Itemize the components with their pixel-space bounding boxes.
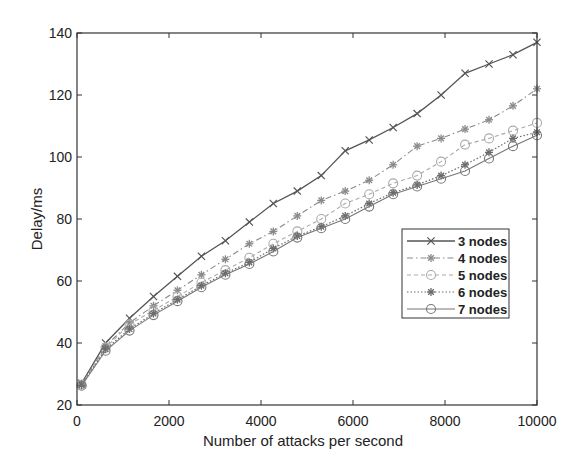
data-point-marker [414,110,421,117]
data-point-marker [390,124,397,131]
y-tick-label: 20 [56,397,72,413]
data-point-marker [294,188,301,195]
y-tick-label: 40 [56,335,72,351]
data-point-marker [293,212,301,220]
data-point-marker [269,227,277,235]
y-tick-label: 140 [49,25,73,41]
data-point-marker [461,125,469,133]
series-3-nodes [78,39,541,387]
data-point-marker [437,134,445,142]
axis-ticks [77,33,537,405]
data-point-marker [198,253,205,260]
x-tick-label: 0 [73,413,81,429]
legend-marker-icon [427,288,435,296]
data-point-marker [509,102,517,110]
data-point-marker [461,70,468,77]
y-tick-label: 60 [56,273,72,289]
y-tick-label: 80 [56,211,72,227]
legend-label-5-nodes: 5 nodes [458,268,507,283]
legend-label-3-nodes: 3 nodes [458,234,507,249]
data-point-marker [222,237,229,244]
data-point-marker [365,176,373,184]
legend-label-6-nodes: 6 nodes [458,285,507,300]
data-point-marker [270,200,277,207]
data-point-marker [246,219,253,226]
plot-frame [77,33,537,405]
x-axis-label: Number of attacks per second [203,432,403,449]
legend: 3 nodes 4 nodes 5 nodes 6 nodes 7 nodes [402,229,509,318]
y-axis-label: Delay/ms [28,188,45,251]
line-chart: 020004000600080001000020406080100120140 … [0,0,583,468]
data-point-marker [389,161,397,169]
legend-label-7-nodes: 7 nodes [458,302,507,317]
data-point-marker [485,116,493,124]
legend-label-4-nodes: 4 nodes [458,251,507,266]
data-point-marker [485,60,492,67]
x-tick-label: 2000 [153,413,184,429]
data-point-marker [317,196,325,204]
data-point-marker [341,187,349,195]
legend-marker-icon [427,254,435,262]
y-tick-label: 100 [49,149,73,165]
y-tick-label: 120 [49,87,73,103]
data-point-marker [366,136,373,143]
x-tick-label: 4000 [245,413,276,429]
data-point-marker [508,126,517,135]
axis-tick-labels: 020004000600080001000020406080100120140 [49,25,557,429]
plot-series [77,39,541,391]
data-point-marker [245,240,253,248]
data-point-marker [509,51,516,58]
x-tick-label: 6000 [337,413,368,429]
x-tick-label: 8000 [429,413,460,429]
data-point-marker [174,273,181,280]
data-point-marker [461,140,470,149]
data-point-marker [342,147,349,154]
data-point-marker [221,255,229,263]
data-point-marker [389,179,398,188]
data-point-marker [437,91,444,98]
data-point-marker [150,293,157,300]
data-point-marker [318,172,325,179]
chart: 020004000600080001000020406080100120140 … [0,0,583,468]
data-point-marker [413,142,421,150]
x-tick-label: 10000 [518,413,557,429]
